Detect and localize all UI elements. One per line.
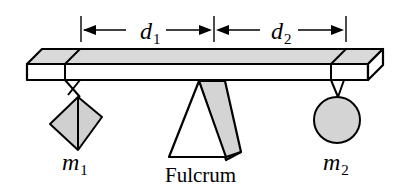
d1-left-arrowhead [83, 25, 96, 35]
fulcrum [169, 81, 241, 160]
m2-circle-mass [314, 97, 360, 143]
m1-string-right [68, 80, 80, 95]
dimension-markers [81, 16, 346, 42]
m2-string-left [331, 80, 338, 97]
m2-label: m2 [323, 149, 349, 178]
d1-right-arrowhead [199, 25, 212, 35]
d1-label: d1 [140, 18, 161, 47]
m1-diamond-mass [50, 97, 102, 150]
m2-string-right [338, 80, 344, 97]
lever-diagram: d1 d2 m1 m2 Fulcrum [0, 0, 400, 187]
d2-left-arrowhead [216, 25, 229, 35]
beam-front-face [27, 64, 368, 80]
beam-top-face [27, 49, 383, 64]
beam [27, 49, 383, 80]
fulcrum-label: Fulcrum [165, 163, 236, 187]
m1-label: m1 [62, 149, 88, 178]
d2-label: d2 [271, 18, 292, 47]
d2-right-arrowhead [331, 25, 344, 35]
